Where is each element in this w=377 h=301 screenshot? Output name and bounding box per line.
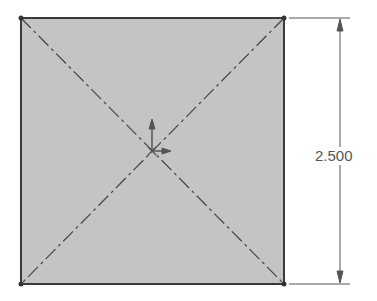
arrow-up-icon [337, 19, 343, 31]
arrow-down-icon [337, 271, 343, 283]
dimension-value[interactable]: 2.500 [314, 147, 354, 165]
